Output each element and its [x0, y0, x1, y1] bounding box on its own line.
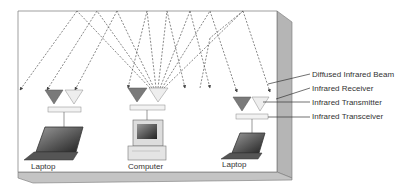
- callout-diffused-infrared-beam: Diffused Infrared Beam: [312, 70, 394, 80]
- callout-infrared-transceiver: Infrared Transceiver: [312, 112, 383, 122]
- computer-label: Computer: [128, 162, 163, 172]
- infrared-transceiver-bar: [48, 107, 81, 112]
- infrared-transceiver-bar: [130, 105, 165, 110]
- floor: [18, 172, 292, 183]
- laptop-right-label: Laptop: [222, 160, 246, 170]
- infrared-network-diagram: [0, 0, 409, 190]
- laptop-left-label: Laptop: [31, 162, 55, 172]
- callout-infrared-receiver: Infrared Receiver: [312, 84, 373, 94]
- infrared-transceiver-bar: [236, 114, 268, 119]
- callout-infrared-transmitter: Infrared Transmitter: [312, 98, 382, 108]
- computer-icon: [128, 120, 166, 160]
